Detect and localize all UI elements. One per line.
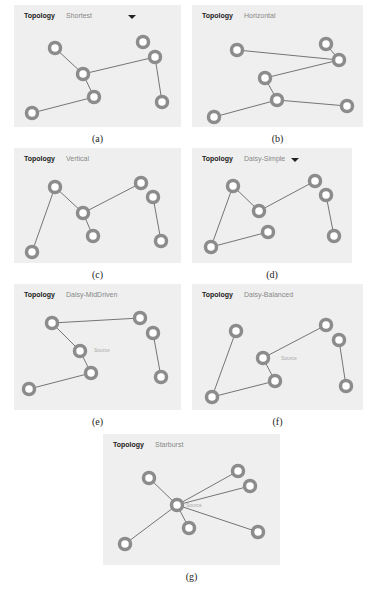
- caption: (g): [177, 571, 207, 582]
- topology-panel-e: [14, 284, 181, 410]
- topology-mode-select[interactable]: Starburst: [155, 441, 183, 448]
- caption: (c): [83, 269, 113, 280]
- caption: (f): [263, 416, 293, 427]
- topology-panel-b: [192, 5, 363, 127]
- caption: (b): [263, 133, 293, 144]
- topology-label: Topology: [24, 155, 55, 162]
- topology-mode-select[interactable]: Vertical: [66, 155, 89, 162]
- chevron-down-icon[interactable]: [291, 158, 299, 162]
- topology-panel-f: [192, 284, 363, 410]
- chevron-down-icon[interactable]: [128, 15, 136, 19]
- topology-mode-select[interactable]: Shortest: [66, 12, 92, 19]
- topology-mode-select[interactable]: Daisy-Balanced: [244, 291, 293, 298]
- topology-label: Topology: [24, 12, 55, 19]
- caption: (a): [83, 133, 113, 144]
- topology-label: Topology: [113, 441, 144, 448]
- topology-panel-g: [103, 434, 280, 565]
- topology-label: Topology: [202, 291, 233, 298]
- topology-label: Topology: [24, 291, 55, 298]
- topology-panel-a: [14, 5, 181, 127]
- caption: (d): [257, 269, 287, 280]
- topology-label: Topology: [202, 155, 233, 162]
- topology-mode-select[interactable]: Daisy-Simple: [244, 155, 285, 162]
- topology-mode-select[interactable]: Daisy-MidDriven: [66, 291, 117, 298]
- topology-label: Topology: [202, 12, 233, 19]
- caption: (e): [83, 416, 113, 427]
- topology-mode-select[interactable]: Horizontal: [244, 12, 276, 19]
- topology-panel-d: [192, 148, 352, 263]
- topology-panel-c: [14, 148, 181, 263]
